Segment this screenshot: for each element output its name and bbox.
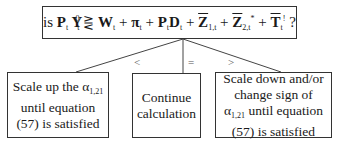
- comparison-symbol: ⋛: [83, 16, 94, 29]
- continue-text: Continue calculation: [137, 90, 196, 122]
- decision-box: is Pt Yt0 ⋛ Wt + πt + PtDt + Z1,t + Z2,t…: [42, 6, 297, 39]
- label-greater: >: [228, 56, 234, 68]
- label-less: <: [134, 56, 140, 68]
- scale-up-text: Scale up the α1,21 until equation (57) i…: [13, 79, 103, 132]
- line-less: [76, 39, 183, 72]
- scale-down-text: Scale down and/or change sign of α1,21 u…: [223, 71, 323, 140]
- scale-down-box: Scale down and/or change sign of α1,21 u…: [215, 72, 332, 138]
- continue-box: Continue calculation: [132, 73, 201, 138]
- question-text: is Pt Yt0 ⋛ Wt + πt + PtDt + Z1,t + Z2,t…: [43, 14, 296, 32]
- scale-up-box: Scale up the α1,21 until equation (57) i…: [7, 72, 109, 138]
- label-equal: =: [188, 56, 194, 68]
